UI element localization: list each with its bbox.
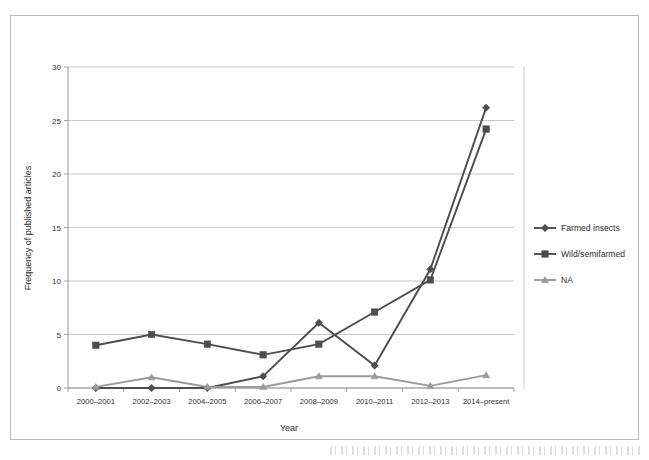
marker-square (371, 309, 377, 315)
marker-square (204, 341, 210, 347)
marker-diamond (482, 104, 489, 111)
legend-label: NA (561, 275, 573, 285)
marker-diamond (541, 224, 548, 231)
y-tick-label: 10 (52, 277, 61, 286)
scan-artifact-caption (330, 446, 640, 455)
series-polyline (96, 108, 486, 388)
legend-label: Farmed insects (561, 223, 620, 233)
y-tick-label: 5 (57, 331, 62, 340)
marker-square (427, 277, 433, 283)
marker-square (483, 126, 489, 132)
marker-square (542, 251, 548, 257)
legend-item-wild-semifarmed[interactable]: Wild/semifarmed (534, 249, 625, 259)
y-axis (64, 67, 68, 388)
series-polyline (96, 375, 486, 387)
marker-square (93, 342, 99, 348)
y-axis-title: Frequency of published articles (23, 165, 33, 290)
gridlines (68, 67, 514, 388)
x-tick-label: 2004–2005 (188, 397, 226, 406)
x-tick-labels: 2000–20012002–20032004–20052006–20072008… (77, 397, 510, 406)
x-tick-label: 2010–2011 (356, 397, 393, 406)
x-tick-label: 2002–2003 (133, 397, 171, 406)
legend-item-farmed-insects[interactable]: Farmed insects (534, 223, 620, 233)
y-tick-label: 0 (57, 384, 62, 393)
y-tick-labels: 051015202530 (52, 63, 61, 393)
legend-label: Wild/semifarmed (561, 249, 625, 259)
series-layer (92, 104, 490, 392)
x-tick-label: 2012–2013 (411, 397, 449, 406)
y-tick-label: 15 (52, 224, 61, 233)
chart-legend: Farmed insectsWild/semifarmedNA (534, 223, 625, 285)
x-tick-label: 2014–present (463, 397, 510, 406)
x-tick-label: 2006–2007 (244, 397, 282, 406)
marker-square (148, 331, 154, 337)
series-wild-semifarmed (93, 126, 490, 358)
x-axis-title: Year (280, 423, 298, 433)
figure-container: 051015202530 2000–20012002–20032004–2005… (0, 0, 649, 460)
series-polyline (96, 129, 486, 355)
y-tick-label: 30 (52, 63, 61, 72)
marker-square (260, 352, 266, 358)
x-tick-label: 2008–2009 (300, 397, 338, 406)
legend-item-na[interactable]: NA (534, 275, 573, 285)
y-tick-label: 25 (52, 117, 61, 126)
marker-diamond (148, 384, 155, 391)
x-tick-label: 2000–2001 (77, 397, 115, 406)
y-tick-label: 20 (52, 170, 61, 179)
line-chart: 051015202530 2000–20012002–20032004–2005… (0, 0, 649, 460)
marker-square (316, 341, 322, 347)
